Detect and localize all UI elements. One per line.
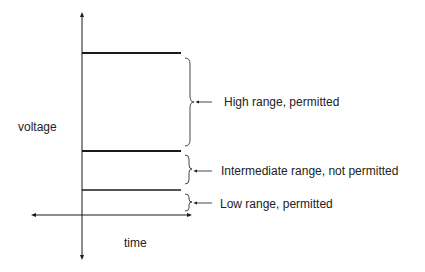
low-range-label: Low range, permitted [220,198,333,210]
intermediate-range-label: Intermediate range, not permitted [221,165,398,177]
high-range-brace [185,58,194,146]
time-axis-label: time [124,237,147,249]
intermediate-range-brace [185,155,192,184]
voltage-range-diagram [0,0,425,272]
low-range-brace [185,194,192,211]
high-range-label: High range, permitted [224,96,339,108]
voltage-axis-label: voltage [18,121,57,133]
